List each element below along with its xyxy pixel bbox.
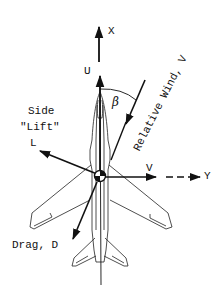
y-axis-label: Y <box>204 171 211 182</box>
aircraft-axes-diagram: X U β Relative Wind, V Side "Lift" L V Y… <box>0 0 219 298</box>
u-label: U <box>84 66 91 77</box>
x-axis-label: X <box>108 26 115 37</box>
center-of-gravity-icon <box>95 171 106 182</box>
side-lift-symbol: L <box>30 138 37 149</box>
beta-label: β <box>112 96 119 108</box>
relative-wind-arrow <box>126 80 145 124</box>
v-label: V <box>146 163 153 174</box>
side-lift-label-line2: "Lift" <box>20 122 60 133</box>
drag-label: Drag, D <box>12 240 58 251</box>
drag-arrow <box>73 182 97 239</box>
side-lift-label-line1: Side <box>28 106 54 117</box>
side-lift-arrow <box>40 151 97 174</box>
